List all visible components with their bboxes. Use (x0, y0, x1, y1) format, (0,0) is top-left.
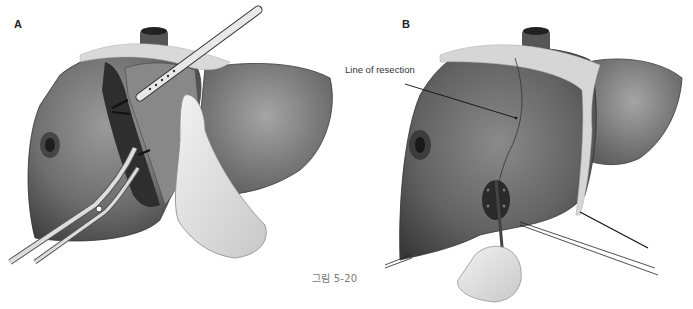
panel-b-illustration (385, 27, 682, 302)
panel-a-illustration (10, 10, 332, 262)
panel-label-b: B (402, 18, 410, 30)
figure-caption: 그림 5-20 (312, 270, 357, 285)
panel-label-a: A (14, 18, 22, 30)
line-of-resection-label: Line of resection (345, 64, 415, 75)
gloved-hand-b (458, 246, 522, 302)
left-lobe-b (585, 59, 682, 165)
figure-illustration (0, 0, 693, 309)
